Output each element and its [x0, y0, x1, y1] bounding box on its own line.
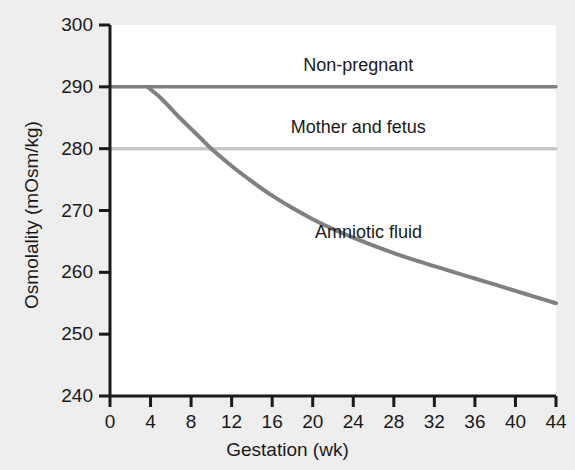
x-tick-label: 20 [293, 412, 333, 431]
x-tick-label: 24 [333, 412, 373, 431]
y-tick-label: 290 [33, 77, 93, 96]
x-tick-label: 12 [212, 412, 252, 431]
x-tick-label: 8 [171, 412, 211, 431]
y-axis-title: Osmolality (mOsm/kg) [21, 121, 42, 309]
y-tick-label: 280 [33, 139, 93, 158]
series-annotation-2: Amniotic fluid [315, 223, 422, 241]
y-tick-label: 270 [33, 201, 93, 220]
plot-background [110, 25, 556, 396]
x-axis-title: Gestation (wk) [0, 440, 575, 459]
y-axis-title-wrap: Osmolality (mOsm/kg) [22, 65, 42, 365]
y-tick-label: 260 [33, 262, 93, 281]
chart-figure: 300290280270260250240 048121620242832364… [0, 0, 575, 470]
x-tick-label: 28 [374, 412, 414, 431]
x-tick-label: 40 [495, 412, 535, 431]
x-tick-label: 4 [131, 412, 171, 431]
y-tick-label: 250 [33, 324, 93, 343]
y-tick-label: 300 [33, 15, 93, 34]
x-tick-label: 32 [414, 412, 454, 431]
x-tick-label: 44 [536, 412, 575, 431]
x-tick-label: 36 [455, 412, 495, 431]
x-tick-label: 0 [90, 412, 130, 431]
series-annotation-0: Non-pregnant [303, 56, 413, 74]
series-annotation-1: Mother and fetus [291, 118, 426, 136]
x-tick-label: 16 [252, 412, 292, 431]
y-tick-label: 240 [33, 386, 93, 405]
